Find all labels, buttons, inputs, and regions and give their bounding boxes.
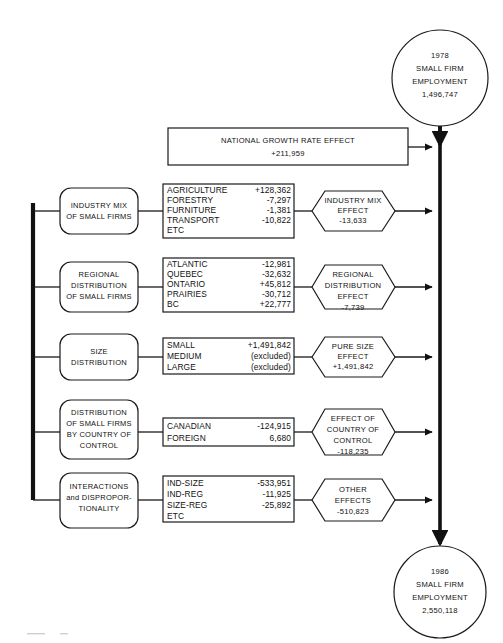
row-3-item-0-value: +1,491,842	[248, 340, 291, 350]
row-5-item-1-value: -11,925	[263, 489, 292, 499]
top-circle-value: 1,496,747	[422, 90, 458, 99]
row-1-cause-line-2: OF SMALL FIRMS	[66, 212, 132, 221]
row-4-item-1-value: 6,680	[270, 433, 292, 443]
row-3-cause-box	[60, 334, 138, 380]
row-1-effect-line-1: INDUSTRY MIX	[324, 196, 381, 205]
row-2-item-4-name: BC	[167, 299, 179, 309]
row-4-cause-line-3: BY COUNTRY OF	[67, 430, 132, 439]
row-3-item-1-name: MEDIUM	[167, 351, 202, 361]
row-1-item-0-value: +128,362	[255, 185, 291, 195]
row-3-effect-value: +1,491,842	[333, 362, 374, 371]
row-2-item-2-value: +45,812	[260, 279, 291, 289]
row-3-cause-line-1: SIZE	[90, 347, 108, 356]
scan-artifact-mark-2	[60, 633, 68, 634]
row-2-cause-line-3: OF SMALL FIRMS	[66, 292, 132, 301]
row-5-effect-value: -510,823	[337, 507, 369, 516]
row-4-item-1-name: FOREIGN	[167, 433, 206, 443]
row-5-effect-line-1: OTHER	[339, 485, 367, 494]
row-5-item-0-value: -533,951	[257, 478, 291, 488]
row-2-cause-line-2: DISTRIBUTION	[71, 281, 127, 290]
row-2-cause-line-1: REGIONAL	[79, 270, 120, 279]
row-4-cause-line-4: CONTROL	[80, 441, 118, 450]
shift-share-decomposition-diagram: 1978 SMALL FIRM EMPLOYMENT 1,496,747 NAT…	[0, 0, 503, 643]
row-5-cause-line-2: and DISPROPOR-	[66, 493, 132, 502]
row-regional-distribution: REGIONAL DISTRIBUTION OF SMALL FIRMS ATL…	[33, 258, 432, 312]
row-4-item-0-value: -124,915	[257, 421, 291, 431]
row-3-effect-line-2: EFFECT	[337, 352, 368, 361]
row-2-item-2-name: ONTARIO	[167, 279, 206, 289]
row-4-effect-value: -118,235	[337, 447, 368, 456]
national-growth-label: NATIONAL GROWTH RATE EFFECT	[221, 136, 355, 145]
row-2-effect-value: -7,739	[341, 303, 364, 312]
row-5-item-2-name: SIZE-REG	[167, 500, 207, 510]
bottom-circle-label-2: EMPLOYMENT	[412, 593, 468, 602]
row-2-item-1-name: QUEBEC	[167, 269, 203, 279]
row-1-effect-line-2: EFFECT	[337, 206, 368, 215]
row-3-item-1-value: (excluded)	[251, 351, 291, 361]
row-5-item-2-value: -25,892	[262, 500, 291, 510]
row-5-item-3-name: ETC	[167, 511, 184, 521]
row-country-of-control: DISTRIBUTION OF SMALL FIRMS BY COUNTRY O…	[33, 400, 432, 459]
row-4-effect-line-1: EFFECT OF	[331, 414, 375, 423]
row-1-item-1-value: -7,297	[267, 195, 292, 205]
row-2-item-4-value: +22,777	[260, 299, 291, 309]
scan-artifact-mark	[27, 633, 45, 634]
row-2-item-3-value: -30,712	[262, 289, 291, 299]
row-size-distribution: SIZE DISTRIBUTION SMALL +1,491,842 MEDIU…	[33, 334, 432, 380]
national-growth-rate-effect: NATIONAL GROWTH RATE EFFECT +211,959	[168, 128, 432, 165]
row-4-effect-line-2: COUNTRY OF	[327, 425, 380, 434]
bottom-employment-node: 1986 SMALL FIRM EMPLOYMENT 2,550,118	[394, 546, 486, 638]
top-circle-label-2: EMPLOYMENT	[412, 77, 468, 86]
bottom-circle-label-1: SMALL FIRM	[416, 580, 464, 589]
row-5-effect-line-2: EFFECTS	[335, 496, 371, 505]
row-1-item-4-name: ETC	[167, 225, 184, 235]
row-3-item-0-name: SMALL	[167, 340, 195, 350]
row-1-item-0-name: AGRICULTURE	[167, 185, 228, 195]
row-3-item-2-value: (excluded)	[251, 362, 291, 372]
row-2-effect-line-2: DISTRIBUTION	[325, 281, 382, 290]
row-5-cause-line-3: TIONALITY	[78, 504, 119, 513]
row-2-effect-line-1: REGIONAL	[332, 270, 373, 279]
top-circle-label-1: SMALL FIRM	[416, 64, 464, 73]
row-1-item-2-name: FURNITURE	[167, 205, 217, 215]
row-5-item-0-name: IND-SIZE	[167, 478, 204, 488]
row-3-item-2-name: LARGE	[167, 362, 196, 372]
row-1-effect-value: -13,633	[339, 216, 367, 225]
row-3-effect-line-1: PURE SIZE	[332, 342, 374, 351]
row-2-effect-line-3: EFFECT	[337, 292, 368, 301]
row-industry-mix: INDUSTRY MIX OF SMALL FIRMS AGRICULTURE …	[33, 184, 432, 238]
row-2-item-0-name: ATLANTIC	[167, 259, 208, 269]
bottom-circle-year: 1986	[431, 567, 449, 576]
row-5-cause-line-1: INTERACTIONS	[70, 482, 129, 491]
row-3-cause-line-2: DISTRIBUTION	[71, 358, 127, 367]
bottom-circle-value: 2,550,118	[422, 606, 457, 615]
row-1-item-3-value: -10,822	[262, 215, 291, 225]
row-4-cause-line-2: OF SMALL FIRMS	[66, 419, 132, 428]
row-1-cause-box	[60, 188, 138, 234]
row-4-item-0-name: CANADIAN	[167, 421, 211, 431]
row-4-effect-line-3: CONTROL	[334, 436, 373, 445]
row-2-item-3-name: PRAIRIES	[167, 289, 207, 299]
national-growth-value: +211,959	[271, 149, 304, 158]
top-circle-year: 1978	[431, 51, 449, 60]
row-1-cause-line-1: INDUSTRY MIX	[71, 201, 127, 210]
row-2-item-0-value: -12,981	[262, 259, 291, 269]
row-1-item-2-value: -1,381	[267, 205, 292, 215]
national-growth-box	[168, 128, 408, 165]
row-interactions: INTERACTIONS and DISPROPOR- TIONALITY IN…	[33, 473, 432, 528]
row-2-item-1-value: -32,632	[262, 269, 291, 279]
row-1-item-3-name: TRANSPORT	[167, 215, 219, 225]
top-employment-node: 1978 SMALL FIRM EMPLOYMENT 1,496,747	[392, 30, 488, 126]
row-1-item-1-name: FORESTRY	[167, 195, 214, 205]
row-4-cause-line-1: DISTRIBUTION	[71, 408, 127, 417]
bottom-circle-outline	[394, 546, 486, 638]
diagram-canvas: 1978 SMALL FIRM EMPLOYMENT 1,496,747 NAT…	[0, 0, 503, 643]
row-5-item-1-name: IND-REG	[167, 489, 203, 499]
